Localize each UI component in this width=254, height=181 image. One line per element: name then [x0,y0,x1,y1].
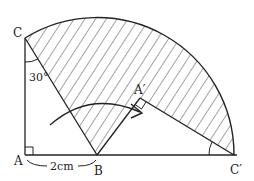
label-b: B [94,164,103,178]
label-a: A [13,154,23,168]
angle-arc-c-prime [209,142,212,155]
label-ab-length: 2cm [50,160,74,173]
right-angle-mark-a [25,147,33,155]
label-a-prime: A′ [133,83,146,97]
label-angle-c: 30° [29,71,49,84]
angle-arc-c [25,59,38,62]
label-c-prime: C′ [230,163,242,177]
shaded-region [25,18,234,155]
label-c: C [13,26,22,40]
rotation-diagram: C 30° A 2cm B A′ C′ [0,0,254,181]
